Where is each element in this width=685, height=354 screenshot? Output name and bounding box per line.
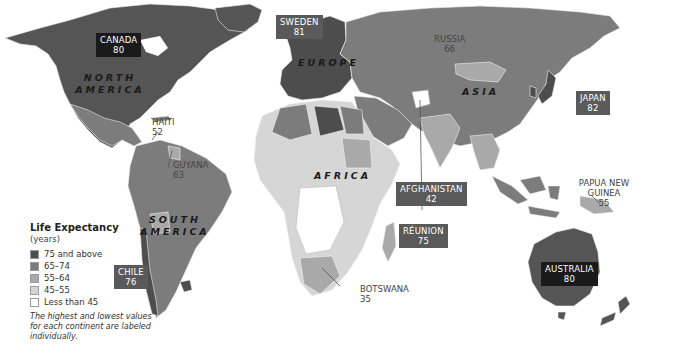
country-name: PAPUA NEW GUINEA [572, 178, 636, 198]
country-value: 52 [152, 127, 174, 137]
label-sweden: SWEDEN 81 [276, 15, 323, 39]
country-name: GUYANA [173, 160, 208, 170]
label-russia: RUSSIA 66 [434, 34, 465, 54]
legend-swatch [30, 250, 39, 259]
legend-item: 75 and above [30, 248, 180, 260]
continent-north-america: NORTH AMERICA [75, 72, 145, 96]
country-name: CANADA [100, 35, 137, 45]
country-name: HAITI [152, 117, 174, 127]
country-name: SWEDEN [280, 17, 319, 27]
legend-item: 55–64 [30, 272, 180, 284]
continent-europe: EUROPE [298, 57, 359, 69]
label-canada: CANADA 80 [96, 33, 141, 57]
label-afghanistan: AFGHANISTAN 42 [396, 182, 467, 206]
legend-swatch [30, 298, 39, 307]
legend-item: 45–55 [30, 284, 180, 296]
legend-item: Less than 45 [30, 296, 180, 308]
label-australia: AUSTRALIA 80 [541, 262, 598, 286]
legend-label: 65–74 [44, 261, 70, 271]
country-value: 75 [403, 236, 444, 246]
country-name: BOTSWANA [360, 284, 409, 294]
legend: Life Expectancy (years) 75 and above 65–… [30, 222, 180, 342]
legend-swatch [30, 286, 39, 295]
label-papua-new-guinea: PAPUA NEW GUINEA 55 [572, 178, 636, 208]
legend-label: 45–55 [44, 285, 70, 295]
continent-africa: AFRICA [314, 170, 371, 182]
label-botswana: BOTSWANA 35 [360, 284, 409, 304]
label-guyana: GUYANA 63 [173, 160, 208, 180]
legend-title: Life Expectancy [30, 222, 180, 234]
label-haiti: HAITI 52 [152, 117, 174, 137]
legend-swatch [30, 274, 39, 283]
country-name: RÉUNION [403, 226, 444, 236]
country-value: 81 [280, 27, 319, 37]
country-value: 80 [100, 45, 137, 55]
country-value: 82 [580, 103, 606, 113]
country-value: 63 [173, 170, 208, 180]
country-value: 80 [545, 274, 594, 284]
country-value: 35 [360, 294, 409, 304]
legend-label: Less than 45 [44, 297, 98, 307]
legend-note: The highest and lowest values for each c… [30, 312, 160, 342]
country-value: 66 [434, 44, 465, 54]
country-name: JAPAN [580, 93, 606, 103]
legend-item: 65–74 [30, 260, 180, 272]
continent-asia: ASIA [462, 86, 499, 98]
country-value: 55 [572, 198, 636, 208]
country-name: AUSTRALIA [545, 264, 594, 274]
label-japan: JAPAN 82 [576, 91, 610, 115]
legend-label: 55–64 [44, 273, 70, 283]
legend-swatch [30, 262, 39, 271]
label-reunion: RÉUNION 75 [399, 224, 448, 248]
legend-label: 75 and above [44, 249, 102, 259]
country-value: 42 [400, 194, 463, 204]
country-name: AFGHANISTAN [400, 184, 463, 194]
country-name: RUSSIA [434, 34, 465, 44]
legend-subtitle: (years) [30, 234, 180, 245]
